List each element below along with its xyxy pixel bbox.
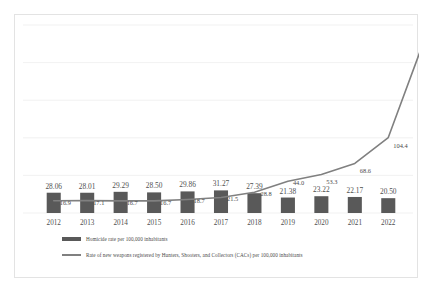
line-value-label: 21.5 [227, 195, 238, 202]
bar-value-label: 31.27 [213, 179, 230, 188]
x-axis-tick-label: 2020 [314, 219, 329, 227]
trend-line [54, 47, 419, 201]
chart-canvas: 28.0628.0129.2928.5029.8631.2727.3921.38… [15, 15, 419, 231]
bar [281, 198, 295, 213]
line-value-label: 68.6 [360, 167, 371, 174]
bar-value-label: 23.22 [313, 185, 330, 194]
bar [114, 192, 128, 213]
line-value-label: 16.7 [127, 199, 139, 206]
legend-bar-swatch-icon [62, 237, 81, 241]
bar [47, 193, 61, 213]
legend-item-weapons-rate: Rate of new weapons registered by Hunter… [15, 247, 419, 263]
chart-card: 28.0628.0129.2928.5029.8631.2727.3921.38… [14, 14, 418, 278]
bar [314, 196, 328, 213]
legend-item-label: Rate of new weapons registered by Hunter… [86, 252, 303, 258]
bar-value-label: 28.50 [146, 181, 163, 190]
bar [181, 191, 195, 213]
bar-value-label: 21.38 [280, 187, 297, 196]
line-value-label: 18.7 [194, 197, 206, 204]
x-axis-tick-label: 2014 [113, 219, 128, 227]
bar [381, 198, 395, 213]
bar-value-label: 28.06 [45, 182, 62, 191]
line-value-label: 53.3 [326, 178, 337, 185]
x-axis-tick-label: 2015 [147, 219, 162, 227]
bar [80, 193, 94, 213]
legend-item-homicide-rate: Homicide rate per 100,000 inhabitants [15, 231, 419, 247]
x-axis-tick-label: 2012 [47, 219, 62, 227]
bar [247, 193, 261, 213]
x-axis-tick-label: 2017 [214, 219, 229, 227]
x-axis-tick-label: 2021 [348, 219, 363, 227]
legend-line-swatch-icon [62, 254, 81, 256]
x-axis-tick-label: 2013 [80, 219, 95, 227]
line-value-label: 17.1 [93, 199, 104, 206]
line-value-label: 16.9 [60, 199, 71, 206]
line-value-label: 44.0 [293, 179, 304, 186]
x-axis-tick-label: 2022 [381, 219, 396, 227]
bar-value-label: 29.29 [112, 181, 129, 190]
bar-value-label: 29.86 [179, 180, 196, 189]
bar [147, 192, 161, 213]
x-axis-tick-label: 2019 [281, 219, 296, 227]
plot-area: 28.0628.0129.2928.5029.8631.2727.3921.38… [15, 15, 419, 231]
bar [214, 190, 228, 213]
line-value-label: 104.4 [393, 142, 408, 149]
x-axis-tick-label: 2016 [180, 219, 195, 227]
chart-legend: Homicide rate per 100,000 inhabitants Ra… [15, 231, 419, 277]
bar-value-label: 28.01 [79, 182, 96, 191]
legend-item-label: Homicide rate per 100,000 inhabitants [86, 236, 168, 242]
x-axis-tick-label: 2018 [247, 219, 262, 227]
bar [348, 197, 362, 213]
line-value-label: 28.8 [260, 190, 271, 197]
line-value-label: 16.7 [160, 199, 172, 206]
bar-value-label: 20.50 [380, 187, 397, 196]
bar-value-label: 22.17 [346, 186, 363, 195]
